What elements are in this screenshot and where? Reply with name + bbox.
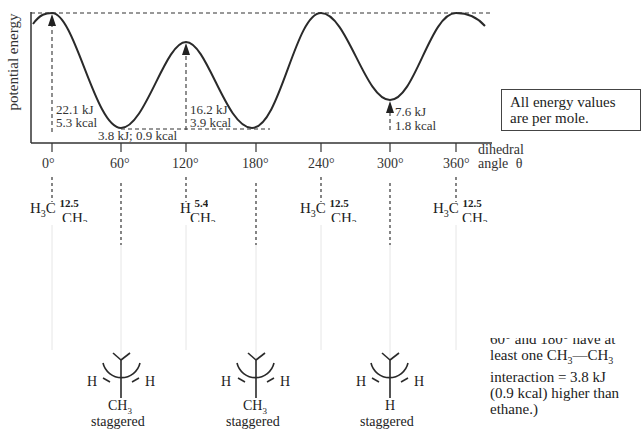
energy-label-300-kcal: 1.8 kcal [395, 119, 436, 133]
x-tick-60: 60° [110, 157, 130, 171]
energy-label-0-kcal: 5.3 kcal [56, 116, 97, 130]
x-tick-120: 120° [172, 157, 199, 171]
arrow-head-300 [386, 101, 394, 113]
energy-label-120-kcal: 3.9 kcal [190, 116, 231, 130]
x-tick-0: 0° [42, 157, 55, 171]
eclipsed-formula-120-ch3: CH3 [190, 210, 216, 222]
x-axis-label-angle: angle [478, 156, 508, 171]
per-mole-note-line1: All energy values [510, 94, 632, 110]
eclipsed-formula-0-ch3: CH3 [62, 210, 88, 222]
newman-projection-180 [237, 353, 274, 398]
x-tick-300: 300° [377, 157, 404, 171]
theta-symbol: θ [516, 156, 523, 171]
x-axis-label-line2: angle θ [478, 157, 523, 171]
energy-label-300-kj: 7.6 kJ [395, 105, 426, 119]
newman-180-conformation-label: staggered [226, 414, 280, 430]
interaction-note-line1: least one CH3—CH3 [490, 347, 635, 369]
newman-projection-60 [103, 353, 140, 398]
arrow-head-120 [182, 43, 190, 55]
interaction-note-line0: 60° and 180° have at [490, 338, 635, 347]
x-tick-360: 360° [443, 157, 470, 171]
newman-300-bottom: H [385, 398, 395, 414]
newman-180-left-h: H [221, 374, 231, 390]
newman-300-right-h: H [414, 374, 424, 390]
newman-projection-300 [371, 353, 408, 398]
interaction-note: 60° and 180° have at least one CH3—CH3 i… [490, 338, 635, 438]
eclipsed-formula-360-ch3: CH3 [462, 210, 488, 222]
newman-180-right-h: H [280, 374, 290, 390]
x-tick-240: 240° [308, 157, 335, 171]
eclipsed-energy-0: 12.5 [60, 200, 79, 209]
eclipsed-energy-240: 12.5 [330, 200, 349, 209]
y-axis-label: potential energy [6, 7, 20, 117]
newman-60-right-h: H [145, 374, 155, 390]
interaction-note-line2: interaction = 3.8 kJ [490, 369, 635, 385]
x-axis-label-line1: dihedral [478, 143, 524, 157]
x-tick-180: 180° [242, 157, 269, 171]
newman-60-conformation-label: staggered [91, 414, 145, 430]
x-ticks [52, 143, 456, 152]
per-mole-note: All energy values are per mole. [501, 89, 641, 131]
newman-60-left-h: H [87, 374, 97, 390]
interaction-note-line3: (0.9 kcal) higher than [490, 385, 635, 401]
newman-300-conformation-label: staggered [360, 414, 414, 430]
eclipsed-energy-120: 5.4 [195, 200, 209, 209]
eclipsed-formula-240-ch3: CH3 [331, 210, 357, 222]
newman-300-left-h: H [356, 374, 366, 390]
eclipsed-energy-360: 12.5 [463, 200, 482, 209]
arrow-head-0 [48, 14, 56, 26]
conformer-connector-lines [52, 177, 456, 245]
interaction-note-line4: ethane.) [490, 401, 635, 417]
energy-label-60: 3.8 kJ; 0.9 kcal [98, 129, 177, 143]
per-mole-note-line2: are per mole. [510, 110, 632, 126]
